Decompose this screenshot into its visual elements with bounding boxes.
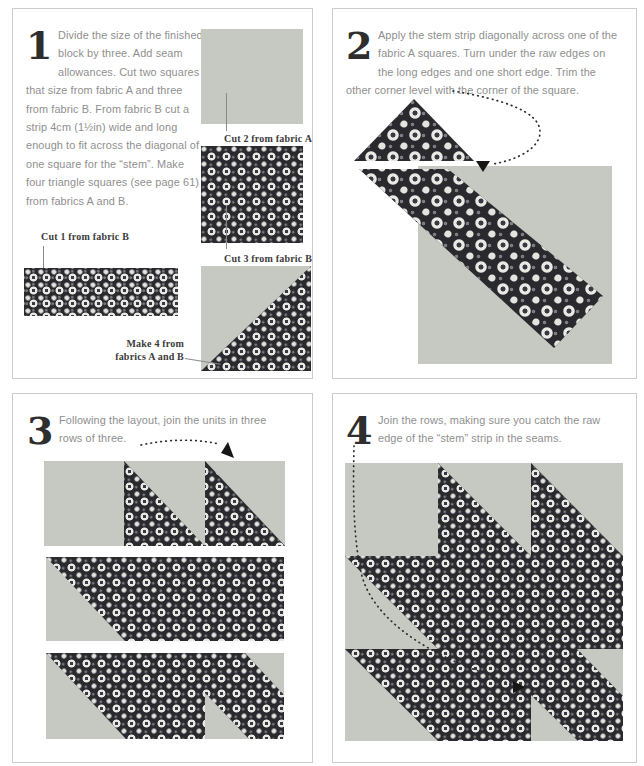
leader-line-cut3 <box>226 205 227 249</box>
step-3-number: 3 <box>27 414 52 448</box>
step-1-text: 1Divide the size of the finished block b… <box>26 26 204 210</box>
row-3-units <box>46 653 284 739</box>
step-4-text: 4Join the rows, making sure you catch th… <box>346 411 622 448</box>
caption-make4: Make 4 from fabrics A and B <box>106 337 184 363</box>
step-4-panel: 4Join the rows, making sure you catch th… <box>332 393 637 763</box>
caption-make4-line1: Make 4 from <box>126 338 184 349</box>
step-3-panel: 3Following the layout, join the units in… <box>12 393 313 763</box>
triangle-square-swatch <box>201 266 311 371</box>
fabric-b-strip-swatch <box>24 268 178 316</box>
fabric-a-square-swatch <box>201 29 303 124</box>
row-2-units <box>46 557 284 641</box>
row-2-gray-corner <box>46 557 284 641</box>
assembled-block <box>345 463 623 741</box>
step-4-number: 4 <box>346 414 371 448</box>
fabric-b-square-swatch <box>201 146 303 243</box>
step-2-text: 2Apply the stem strip diagonally across … <box>346 26 622 100</box>
step-3-text: 3Following the layout, join the units in… <box>27 411 279 448</box>
caption-make4-line2: fabrics A and B <box>115 351 184 362</box>
caption-cut1: Cut 1 from fabric B <box>41 230 129 243</box>
row-1-units <box>44 461 285 546</box>
caption-cut2: Cut 2 from fabric A <box>224 132 312 145</box>
page: 1Divide the size of the finished block b… <box>0 0 644 766</box>
step-2-panel: 2Apply the stem strip diagonally across … <box>332 8 637 379</box>
step-2-number: 2 <box>346 29 371 63</box>
caption-cut3: Cut 3 from fabric B <box>224 252 312 265</box>
step-3-paragraph: Following the layout, join the units in … <box>59 414 266 444</box>
step-2-paragraph: Apply the stem strip diagonally across o… <box>346 29 617 96</box>
step-1-panel: 1Divide the size of the finished block b… <box>12 8 313 379</box>
step-1-number: 1 <box>26 29 51 63</box>
triangle-square-dark-half <box>201 266 311 371</box>
leader-line-cut2 <box>226 93 227 131</box>
step-4-paragraph: Join the rows, making sure you catch the… <box>378 414 600 444</box>
